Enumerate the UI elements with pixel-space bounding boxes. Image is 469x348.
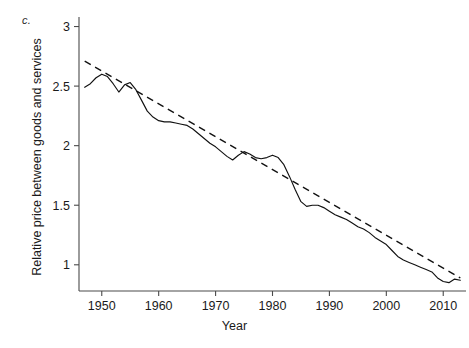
y-tick-label: 2	[63, 139, 70, 153]
series-relative-price	[85, 74, 461, 282]
y-tick-label: 1	[63, 258, 70, 272]
x-tick-label: 1950	[88, 299, 116, 313]
y-axis-ticks: 11.522.53	[53, 20, 79, 272]
x-tick-label: 1990	[316, 299, 344, 313]
y-tick-label: 1.5	[53, 199, 70, 213]
y-tick-label: 3	[63, 20, 70, 34]
y-tick-label: 2.5	[53, 80, 70, 94]
chart-figure: c. Relative price between goods and serv…	[0, 0, 469, 348]
x-tick-label: 2000	[372, 299, 400, 313]
axis-spines	[79, 17, 466, 291]
chart-plot-area: 11.522.53 1950196019701980199020002010	[0, 0, 469, 348]
series-linear-trend	[85, 61, 461, 278]
x-tick-label: 1970	[202, 299, 230, 313]
x-tick-label: 2010	[429, 299, 457, 313]
x-tick-label: 1960	[145, 299, 173, 313]
x-tick-label: 1980	[259, 299, 287, 313]
x-axis-ticks: 1950196019701980199020002010	[88, 291, 457, 313]
